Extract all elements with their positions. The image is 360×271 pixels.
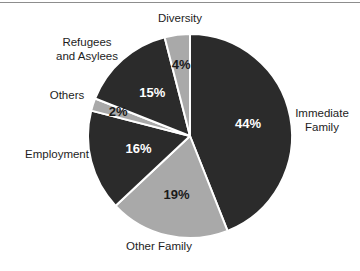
slice-value-others: 2%: [109, 104, 128, 119]
slice-value-refugees-and-asylees: 15%: [139, 85, 165, 100]
category-label-diversity: Diversity: [130, 12, 230, 26]
slice-value-other-family: 19%: [164, 187, 190, 202]
category-label-immediate-family: Immediate Family: [286, 107, 358, 134]
slice-value-employment: 16%: [126, 141, 152, 156]
slice-value-diversity: 4%: [172, 57, 191, 72]
pie-chart-figure: 44%19%16%2%15%4% Diversity Refugees and …: [0, 0, 360, 271]
category-label-refugees-and-asylees: Refugees and Asylees: [34, 36, 140, 63]
category-label-others: Others: [34, 89, 100, 103]
category-label-other-family: Other Family: [104, 240, 214, 254]
slice-value-immediate-family: 44%: [235, 116, 261, 131]
category-label-employment: Employment: [14, 148, 100, 162]
